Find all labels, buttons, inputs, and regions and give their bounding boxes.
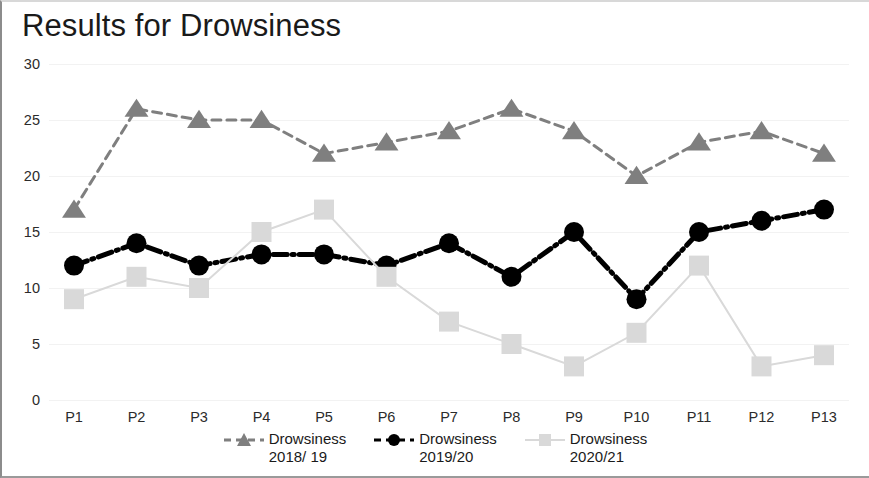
legend-label: Drowsiness 2018/ 19 [269,430,347,466]
legend-label: Drowsiness 2020/21 [570,430,648,466]
x-axis-label: P8 [503,409,521,425]
legend-item-2[interactable]: Drowsiness 2019/20 [374,430,497,466]
series-canvas [49,64,849,400]
data-point [127,233,147,253]
data-point [314,244,334,264]
x-axis-label: P10 [624,409,650,425]
data-point [564,222,584,242]
y-axis-label: 10 [0,280,40,296]
legend-marker-square-icon [525,432,565,448]
x-axis-label: P3 [190,409,208,425]
data-point [627,289,647,309]
data-point [562,121,586,139]
plot-area: 051015202530 P1P2P3P4P5P6P7P8P9P10P11P12… [49,64,849,400]
x-axis-label: P9 [565,409,583,425]
x-axis-label: P13 [811,409,837,425]
data-point [689,222,709,242]
legend-item-3[interactable]: Drowsiness 2020/21 [525,430,648,466]
data-point [687,132,711,150]
data-point [375,132,399,150]
x-axis-label: P4 [253,409,271,425]
data-point [812,143,836,161]
data-point [377,267,397,287]
data-point [189,256,209,276]
chart-legend: Drowsiness 2018/ 19Drowsiness 2019/20Dro… [2,430,869,466]
data-point [814,200,834,220]
x-axis-label: P11 [687,409,712,425]
data-point [627,323,647,343]
data-point [252,222,272,242]
series-2 [64,200,834,310]
chart-title: Results for Drowsiness [22,8,341,44]
y-axis-label: 20 [0,168,40,184]
y-axis-label: 15 [0,224,40,240]
legend-label: Drowsiness 2019/20 [419,430,497,466]
data-point [500,99,524,117]
data-point [314,200,334,220]
data-point [189,278,209,298]
legend-item-1[interactable]: Drowsiness 2018/ 19 [224,430,347,466]
legend-marker-circle-icon [374,432,414,448]
y-axis-label: 0 [0,392,40,408]
gridline [49,400,849,401]
data-point [64,289,84,309]
data-point [502,334,522,354]
data-point [752,356,772,376]
chart-frame: Results for Drowsiness 051015202530 P1P2… [0,0,869,478]
data-point [62,199,86,217]
data-point [439,233,459,253]
x-axis-label: P7 [440,409,458,425]
data-point [127,267,147,287]
data-point [689,256,709,276]
series-line [74,210,824,367]
y-axis-label: 30 [0,56,40,72]
data-point [252,244,272,264]
x-axis-label: P6 [378,409,396,425]
legend-marker-triangle-icon [224,432,264,448]
data-point [752,211,772,231]
data-point [64,256,84,276]
data-point [439,312,459,332]
data-point [437,121,461,139]
data-point [814,345,834,365]
x-axis-label: P2 [128,409,146,425]
data-point [750,121,774,139]
data-point [625,166,649,184]
y-axis-label: 5 [0,336,40,352]
x-axis-label: P12 [749,409,775,425]
data-point [564,356,584,376]
y-axis-label: 25 [0,112,40,128]
x-axis-label: P1 [65,409,83,425]
data-point [502,267,522,287]
x-axis-label: P5 [315,409,333,425]
series-1 [62,99,836,218]
data-point [250,110,274,128]
data-point [125,99,149,117]
